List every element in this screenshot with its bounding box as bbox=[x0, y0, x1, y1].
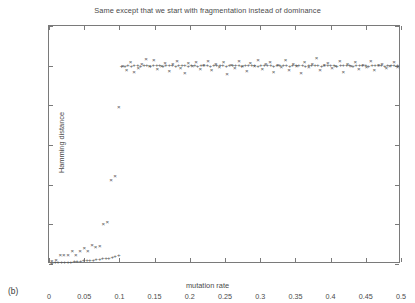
x-tick-mark bbox=[225, 258, 226, 262]
x-tick-label: 0.2 bbox=[170, 292, 210, 301]
x-tick-mark bbox=[119, 26, 120, 30]
y-tick-mark bbox=[49, 66, 53, 67]
x-tick-mark bbox=[401, 26, 402, 30]
x-tick-mark bbox=[295, 258, 296, 262]
x-tick-label: 0.25 bbox=[205, 292, 245, 301]
x-tick-mark bbox=[119, 258, 120, 262]
x-tick-mark bbox=[331, 258, 332, 262]
x-tick-mark bbox=[84, 26, 85, 30]
y-tick-mark bbox=[395, 105, 399, 106]
x-tick-label: 0.05 bbox=[64, 292, 104, 301]
y-tick-mark bbox=[395, 26, 399, 27]
x-tick-label: 0.15 bbox=[135, 292, 175, 301]
y-tick-mark bbox=[395, 185, 399, 186]
x-tick-label: 0 bbox=[29, 292, 69, 301]
x-tick-mark bbox=[49, 258, 50, 262]
y-tick-mark bbox=[395, 224, 399, 225]
x-tick-label: 0.45 bbox=[346, 292, 386, 301]
x-tick-mark bbox=[295, 26, 296, 30]
y-tick-mark bbox=[395, 264, 399, 265]
x-tick-mark bbox=[190, 258, 191, 262]
figure-panel: Same except that we start with fragmenta… bbox=[0, 0, 415, 303]
x-tick-label: 0.4 bbox=[311, 292, 351, 301]
y-tick-mark bbox=[49, 224, 53, 225]
x-tick-mark bbox=[190, 26, 191, 30]
y-axis-title: Hamming distance bbox=[57, 13, 66, 273]
x-tick-mark bbox=[366, 258, 367, 262]
x-tick-mark bbox=[260, 258, 261, 262]
x-tick-mark bbox=[84, 258, 85, 262]
y-tick-mark bbox=[395, 145, 399, 146]
x-tick-label: 0.5 bbox=[381, 292, 415, 301]
y-tick-mark bbox=[49, 145, 53, 146]
x-tick-label: 0.1 bbox=[99, 292, 139, 301]
x-tick-mark bbox=[155, 26, 156, 30]
x-tick-mark bbox=[225, 26, 226, 30]
x-tick-mark bbox=[155, 258, 156, 262]
x-tick-mark bbox=[331, 26, 332, 30]
x-tick-mark bbox=[260, 26, 261, 30]
y-tick-mark bbox=[49, 185, 53, 186]
x-tick-label: 0.35 bbox=[275, 292, 315, 301]
x-tick-label: 0.3 bbox=[240, 292, 280, 301]
y-tick-mark bbox=[49, 105, 53, 106]
x-tick-mark bbox=[49, 26, 50, 30]
y-tick-mark bbox=[49, 264, 53, 265]
y-tick-mark bbox=[395, 66, 399, 67]
x-tick-mark bbox=[366, 26, 367, 30]
x-axis-title: mutation rate bbox=[0, 281, 415, 290]
panel-label: (b) bbox=[8, 286, 18, 296]
x-tick-mark bbox=[401, 258, 402, 262]
plot-area: 00.10.20.30.40.50.6 00.050.10.150.20.250… bbox=[48, 25, 400, 263]
